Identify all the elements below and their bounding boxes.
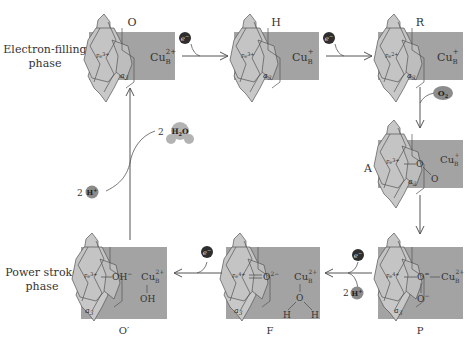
svg-text:2: 2 — [158, 127, 164, 137]
svg-text:O: O — [296, 293, 303, 303]
state-label: F — [267, 325, 274, 336]
phase-label-electron-filling: Electron-filling — [3, 43, 86, 56]
svg-text:O: O — [416, 159, 423, 169]
state-label: H — [271, 16, 281, 29]
svg-text:H: H — [283, 310, 291, 320]
state-F: Fe4+ a3 O2− CuB2+ O H H F — [220, 233, 320, 336]
state-label: O — [127, 16, 136, 29]
phase-label-electron-filling-2: phase — [29, 57, 62, 70]
phase-label-power-stroke: Power stroke — [5, 266, 78, 279]
state-label: A — [363, 162, 373, 175]
catalytic-cycle-diagram: Electron-filling phase Power stroke phas… — [0, 0, 476, 349]
state-H: H Fe3+ a3 CuB+ — [230, 14, 319, 102]
state-A: A Fe3+ a3 O O CuB+ — [363, 120, 463, 208]
svg-text:H: H — [311, 310, 319, 320]
state-label: R — [416, 16, 425, 29]
state-O-prime: Fe3+ a3 OH− CuB2+ OH O′ — [72, 233, 167, 336]
state-label: P — [417, 325, 424, 336]
svg-text:2: 2 — [343, 288, 349, 298]
phase-label-power-stroke-2: phase — [26, 280, 59, 293]
state-P: Fe4+ a3 O= O− CuB2+ P — [374, 233, 464, 336]
svg-text:OH: OH — [140, 294, 155, 304]
svg-text:2: 2 — [77, 188, 83, 198]
svg-text:O: O — [431, 174, 438, 184]
state-label: O′ — [119, 325, 130, 336]
